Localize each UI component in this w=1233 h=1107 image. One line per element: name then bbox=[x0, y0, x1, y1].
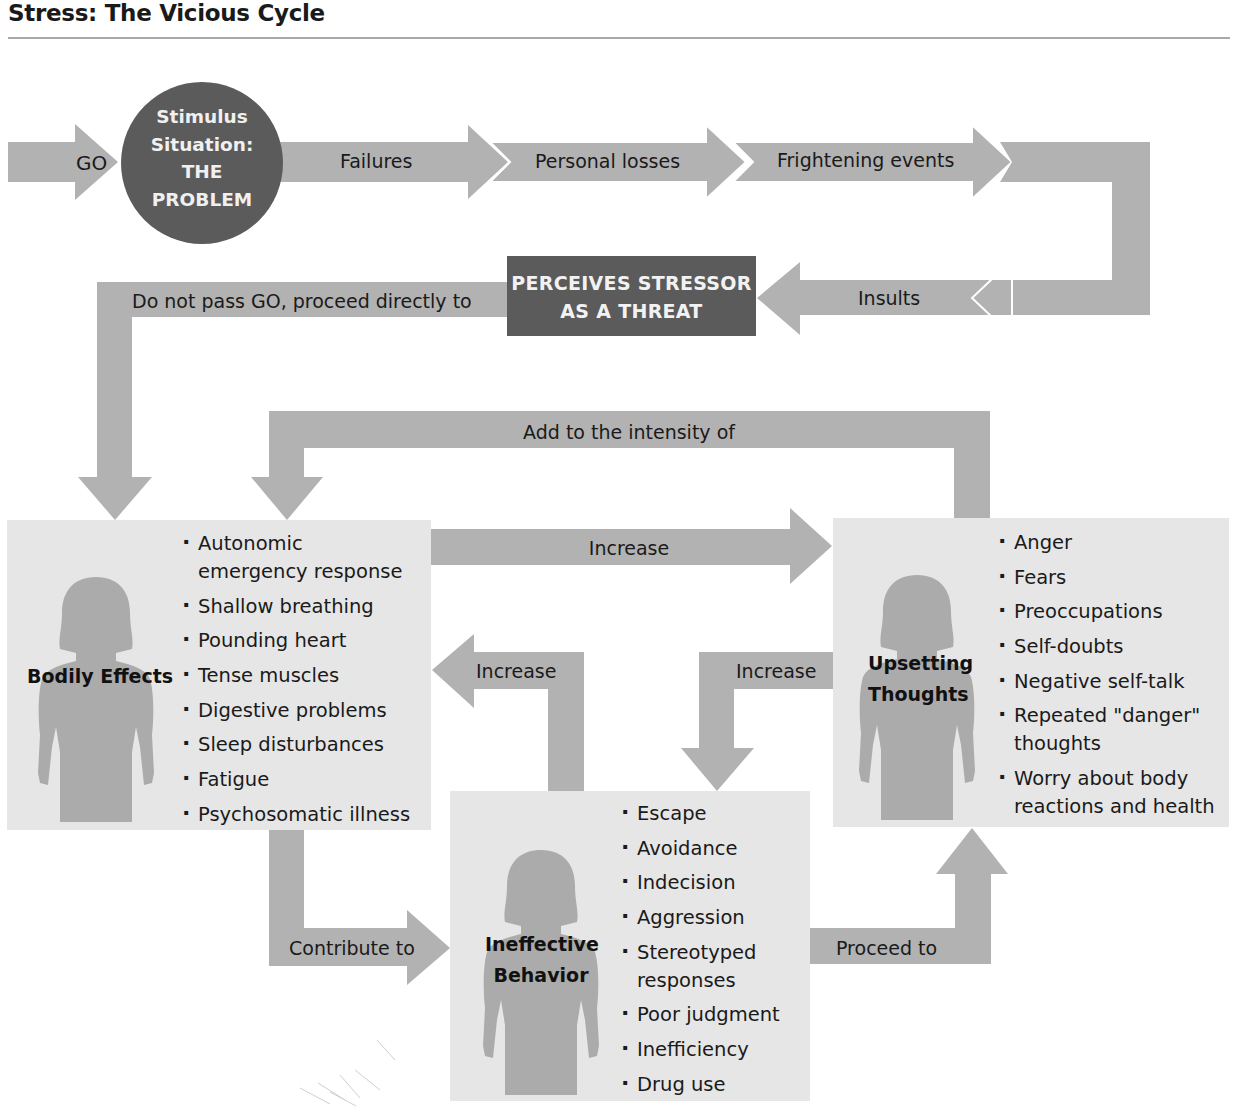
frightening-events-label: Frightening events bbox=[777, 149, 954, 171]
bodily-effects-list: Autonomicemergency response Shallow brea… bbox=[182, 530, 410, 836]
list-item: Preoccupations bbox=[998, 598, 1215, 626]
do-not-pass-go-label: Do not pass GO, proceed directly to bbox=[132, 290, 472, 312]
list-item: Pounding heart bbox=[182, 627, 410, 655]
go-label: GO bbox=[76, 151, 107, 175]
list-item: Poor judgment bbox=[621, 1001, 780, 1029]
list-item: Psychosomatic illness bbox=[182, 801, 410, 829]
list-item: Self-doubts bbox=[998, 633, 1215, 661]
list-item: Indecision bbox=[621, 869, 780, 897]
upsetting-thoughts-list: Anger Fears Preoccupations Self-doubts N… bbox=[998, 529, 1215, 828]
list-item: Avoidance bbox=[621, 835, 780, 863]
increase-right-label: Increase bbox=[589, 537, 669, 559]
threat-line-2: AS A THREAT bbox=[507, 297, 756, 325]
add-intensity-label: Add to the intensity of bbox=[523, 421, 735, 443]
insults-label: Insults bbox=[858, 287, 920, 309]
stimulus-line-3: THE bbox=[120, 158, 284, 186]
list-item: Fatigue bbox=[182, 766, 410, 794]
increase-left-label: Increase bbox=[476, 660, 556, 682]
list-item: Autonomicemergency response bbox=[182, 530, 410, 586]
person-silhouette-bodily bbox=[38, 577, 154, 822]
list-item: Anger bbox=[998, 529, 1215, 557]
list-item: Digestive problems bbox=[182, 697, 410, 725]
stimulus-line-4: PROBLEM bbox=[120, 186, 284, 214]
bodily-effects-title: Bodily Effects bbox=[27, 661, 173, 692]
proceed-to-label: Proceed to bbox=[836, 937, 937, 959]
list-item: Repeated "danger"thoughts bbox=[998, 702, 1215, 758]
contribute-to-label: Contribute to bbox=[289, 937, 415, 959]
list-item: Sleep disturbances bbox=[182, 731, 410, 759]
scribble-marks bbox=[300, 1040, 395, 1106]
increase-left-arrow bbox=[432, 634, 584, 791]
list-item: Aggression bbox=[621, 904, 780, 932]
contribute-to-arrow bbox=[269, 830, 450, 985]
list-item: Negative self-talk bbox=[998, 668, 1215, 696]
loop-connector bbox=[1000, 142, 1150, 315]
list-item: Drug use bbox=[621, 1071, 780, 1099]
failures-label: Failures bbox=[340, 150, 412, 172]
list-item: Shallow breathing bbox=[182, 593, 410, 621]
list-item: Fears bbox=[998, 564, 1215, 592]
list-item: Worry about bodyreactions and health bbox=[998, 765, 1215, 821]
perceives-stressor-node: PERCEIVES STRESSOR AS A THREAT bbox=[507, 256, 756, 336]
stimulus-situation-node: Stimulus Situation: THE PROBLEM bbox=[120, 103, 284, 213]
upsetting-thoughts-title: Upsetting Thoughts bbox=[868, 648, 968, 710]
list-item: Tense muscles bbox=[182, 662, 410, 690]
increase-down-label: Increase bbox=[736, 660, 816, 682]
threat-line-1: PERCEIVES STRESSOR bbox=[507, 269, 756, 297]
stimulus-line-2: Situation: bbox=[120, 131, 284, 159]
personal-losses-label: Personal losses bbox=[535, 150, 680, 172]
ineffective-behavior-list: Escape Avoidance Indecision Aggression S… bbox=[621, 800, 780, 1106]
list-item: Inefficiency bbox=[621, 1036, 780, 1064]
list-item: Escape bbox=[621, 800, 780, 828]
stimulus-line-1: Stimulus bbox=[120, 103, 284, 131]
ineffective-behavior-title: Ineffective Behavior bbox=[485, 929, 597, 991]
list-item: Stereotypedresponses bbox=[621, 939, 780, 995]
